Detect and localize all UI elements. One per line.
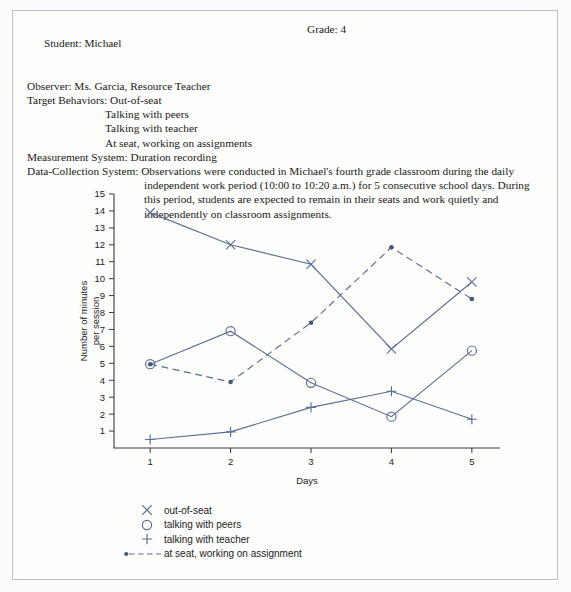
data-point-dot	[389, 245, 394, 250]
target-behavior-2: Talking with peers	[27, 107, 532, 121]
series-line-at-seat-working-on-assignment	[150, 247, 472, 382]
series-line-out-of-seat	[150, 213, 472, 349]
legend-label-talking-with-teacher: talking with teacher	[164, 534, 250, 545]
duration-recording-line-chart: 12345678910111213141512345DaysNumber of …	[68, 186, 508, 496]
legend-item-talking-with-peers: talking with peers	[130, 518, 302, 533]
y-tick-label: 13	[94, 222, 105, 233]
x-marker-icon	[130, 503, 164, 517]
legend-label-out-of-seat: out-of-seat	[164, 505, 212, 516]
page-root: Student: Michael Grade: 4 Observer: Ms. …	[0, 0, 571, 592]
grade-label: Grade: 4	[307, 22, 346, 36]
data-point-dot	[148, 362, 153, 367]
x-tick-label: 4	[389, 456, 394, 467]
legend-label-talking-with-peers: talking with peers	[164, 519, 241, 530]
y-axis-title: per session	[90, 297, 101, 346]
y-tick-label: 4	[100, 375, 105, 386]
x-tick-label: 2	[228, 456, 233, 467]
data-point-plus	[226, 427, 236, 437]
data-point-x	[146, 208, 155, 217]
measurement-system-row: Measurement System: Duration recording	[27, 150, 532, 164]
x-tick-label: 3	[308, 456, 313, 467]
chart-svg: 12345678910111213141512345DaysNumber of …	[68, 186, 508, 496]
chart-legend: out-of-seat talking with peers talking w…	[130, 503, 302, 561]
y-tick-label: 2	[100, 409, 105, 420]
data-point-x	[226, 240, 235, 249]
y-tick-label: 11	[95, 256, 105, 267]
student-label: Student: Michael	[44, 37, 122, 49]
data-point-x	[306, 260, 315, 269]
chart-labels-layer: 12345678910111213141512345DaysNumber of …	[78, 188, 475, 486]
axis-lines	[114, 194, 500, 448]
target-behavior-3: Talking with teacher	[27, 121, 532, 135]
x-tick-label: 5	[469, 456, 474, 467]
observer-row: Observer: Ms. Garcia, Resource Teacher	[27, 79, 532, 93]
data-point-dot	[470, 297, 475, 302]
data-point-plus	[306, 402, 316, 412]
data-collection-row-1: Data-Collection System: Observations wer…	[27, 164, 532, 178]
dashed-line-marker-icon	[130, 547, 164, 561]
data-point-plus	[467, 414, 477, 424]
circle-marker-icon	[130, 518, 164, 532]
y-tick-label: 14	[94, 205, 105, 216]
y-tick-label: 1	[100, 425, 105, 436]
chart-series-layer	[145, 208, 477, 445]
y-tick-label: 15	[94, 188, 105, 199]
legend-item-talking-with-teacher: talking with teacher	[130, 532, 302, 547]
data-point-x	[387, 344, 396, 353]
x-axis-title: Days	[296, 475, 318, 486]
target-behaviors-row: Target Behaviors: Out-of-seat	[27, 93, 532, 107]
y-axis-ticks	[109, 194, 114, 431]
legend-label-at-seat: at seat, working on assignment	[164, 548, 302, 559]
chart-axes	[109, 194, 500, 453]
x-tick-label: 1	[148, 456, 153, 467]
legend-item-at-seat: at seat, working on assignment	[130, 547, 302, 562]
student-row: Student: Michael Grade: 4	[27, 22, 532, 79]
y-tick-label: 10	[94, 273, 105, 284]
data-point-x	[467, 277, 476, 286]
y-tick-label: 12	[94, 239, 105, 250]
y-tick-label: 3	[100, 392, 105, 403]
data-point-dot	[228, 380, 233, 385]
series-line-talking-with-teacher	[150, 391, 472, 439]
y-axis-title: Number of minutes	[78, 281, 89, 362]
data-point-circle	[467, 346, 476, 355]
legend-item-out-of-seat: out-of-seat	[130, 503, 302, 518]
target-behavior-4: At seat, working on assignments	[27, 136, 532, 150]
data-point-dot	[309, 320, 314, 325]
y-tick-label: 5	[100, 358, 105, 369]
data-point-plus	[145, 435, 155, 445]
plus-marker-icon	[130, 532, 164, 546]
x-axis-ticks	[150, 448, 472, 453]
data-point-plus	[386, 386, 396, 396]
